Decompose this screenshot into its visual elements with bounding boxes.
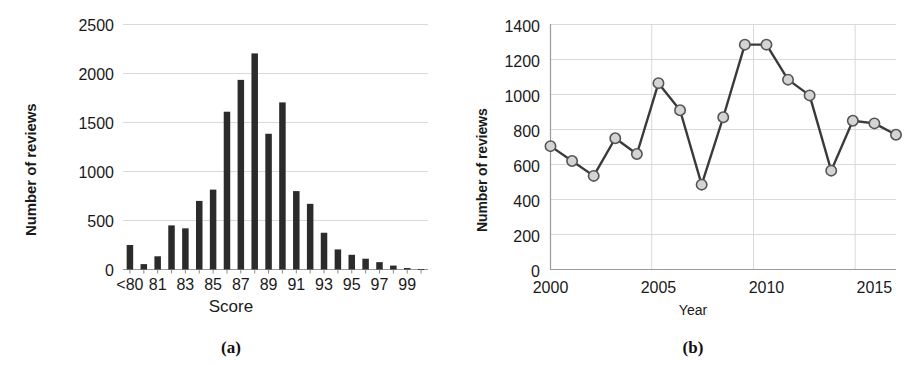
panel-b-line-chart: Number of reviews 1400 1200 1000 800 600… bbox=[462, 0, 924, 379]
data-point-2011 bbox=[783, 74, 793, 84]
figure-container: Number of reviews 2500 2000 1500 1000 50… bbox=[0, 0, 924, 379]
panel-a-bar-chart: Number of reviews 2500 2000 1500 1000 50… bbox=[0, 0, 462, 379]
data-point-2007 bbox=[696, 179, 706, 189]
panel-b-xtick-2000: 2000 bbox=[521, 280, 581, 296]
panel-a-caption: (a) bbox=[0, 338, 462, 358]
data-point-2003 bbox=[610, 133, 620, 143]
data-point-2014 bbox=[848, 116, 858, 126]
data-point-2015 bbox=[869, 118, 879, 128]
data-point-2002 bbox=[588, 171, 598, 181]
data-point-2005 bbox=[653, 78, 663, 88]
panel-a-plot-area: Number of reviews 2500 2000 1500 1000 50… bbox=[0, 0, 462, 325]
panel-b-plot-area: Number of reviews 1400 1200 1000 800 600… bbox=[462, 0, 924, 325]
data-point-2000 bbox=[545, 141, 555, 151]
panel-b-x-axis-label: Year bbox=[462, 302, 924, 318]
data-point-2001 bbox=[567, 156, 577, 166]
panel-b-line-series bbox=[462, 0, 924, 325]
data-point-2013 bbox=[826, 165, 836, 175]
data-point-2010 bbox=[761, 39, 771, 49]
panel-b-xtick-2010: 2010 bbox=[736, 280, 796, 296]
data-point-2016 bbox=[891, 130, 901, 140]
panel-a-x-axis-label: Score bbox=[0, 297, 462, 317]
data-point-2006 bbox=[675, 105, 685, 115]
data-point-2004 bbox=[632, 149, 642, 159]
data-point-2009 bbox=[740, 39, 750, 49]
panel-a-xtick-99: 99 bbox=[382, 277, 432, 293]
data-point-2012 bbox=[804, 90, 814, 100]
data-point-2008 bbox=[718, 112, 728, 122]
panel-b-xtick-2005: 2005 bbox=[628, 280, 688, 296]
panel-b-xtick-2015: 2015 bbox=[844, 280, 904, 296]
panel-b-caption: (b) bbox=[462, 338, 924, 358]
